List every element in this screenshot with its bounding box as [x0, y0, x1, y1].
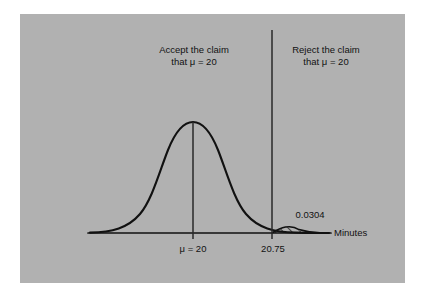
critical-value-tick-label: 20.75	[243, 243, 303, 255]
tail-area-label: 0.0304	[283, 209, 337, 221]
x-axis-label: Minutes	[334, 227, 394, 239]
mean-tick-label: μ = 20	[163, 243, 223, 255]
figure-page: Accept the claim that μ = 20 Reject the …	[0, 0, 422, 299]
rejection-region-label: Reject the claim that μ = 20	[278, 44, 374, 68]
acceptance-region-label: Accept the claim that μ = 20	[134, 44, 254, 68]
